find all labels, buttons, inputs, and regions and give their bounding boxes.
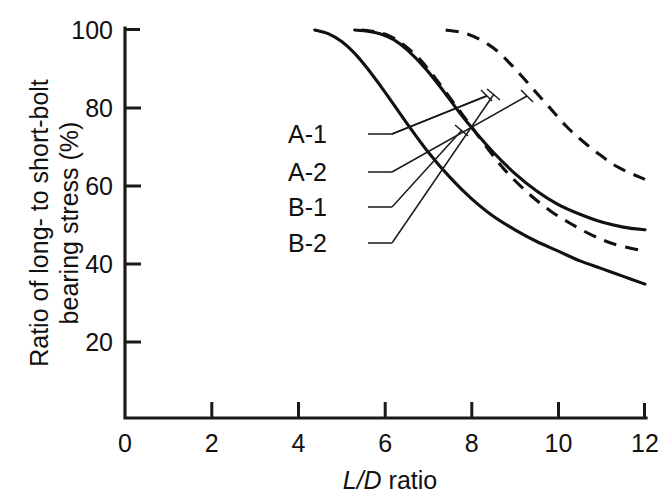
- y-tick-label-80: 80: [85, 94, 113, 122]
- leader-a2-tick: [521, 90, 533, 102]
- x-tick-label-6: 6: [378, 429, 392, 457]
- curve-b1: [361, 30, 645, 251]
- curve-a1: [315, 30, 645, 284]
- y-axis-title-group: Ratio of long- to short-bolt bearing str…: [25, 79, 83, 367]
- x-tick-marks: [212, 402, 559, 418]
- x-tick-labels: 0 2 4 6 8 10 12: [118, 429, 659, 457]
- series-labels: A-1 A-2 B-1 B-2: [288, 120, 327, 257]
- leader-b2-stem: [392, 94, 494, 243]
- x-tick-label-8: 8: [465, 429, 479, 457]
- y-tick-label-60: 60: [85, 172, 113, 200]
- y-tick-label-100: 100: [71, 16, 113, 44]
- series-label-a2: A-2: [288, 158, 327, 186]
- x-tick-label-10: 10: [545, 429, 573, 457]
- x-axis-title-rest: ratio: [382, 466, 438, 494]
- y-tick-label-40: 40: [85, 250, 113, 278]
- series-label-b2: B-2: [288, 229, 327, 257]
- y-axis-title-line2: bearing stress (%): [55, 122, 83, 325]
- x-tick-label-2: 2: [205, 429, 219, 457]
- curve-b2: [446, 30, 645, 179]
- x-axis-title: L/D ratio: [343, 466, 438, 494]
- series-label-a1: A-1: [288, 120, 327, 148]
- x-tick-label-12: 12: [631, 429, 659, 457]
- x-tick-label-0: 0: [118, 429, 132, 457]
- chart-canvas: 100 80 60 40 20 0 2 4 6 8 10 12 L/D rati…: [0, 0, 670, 499]
- x-axis-title-italic: L/D: [343, 466, 382, 494]
- y-axis-title-line1: Ratio of long- to short-bolt: [25, 79, 53, 367]
- series-label-b1: B-1: [288, 193, 327, 221]
- chart-figure: 100 80 60 40 20 0 2 4 6 8 10 12 L/D rati…: [0, 0, 670, 499]
- leader-b1-stem: [392, 130, 462, 207]
- data-curves: [315, 30, 645, 284]
- x-tick-label-4: 4: [292, 429, 306, 457]
- y-tick-marks: [125, 108, 141, 342]
- y-tick-label-20: 20: [85, 328, 113, 356]
